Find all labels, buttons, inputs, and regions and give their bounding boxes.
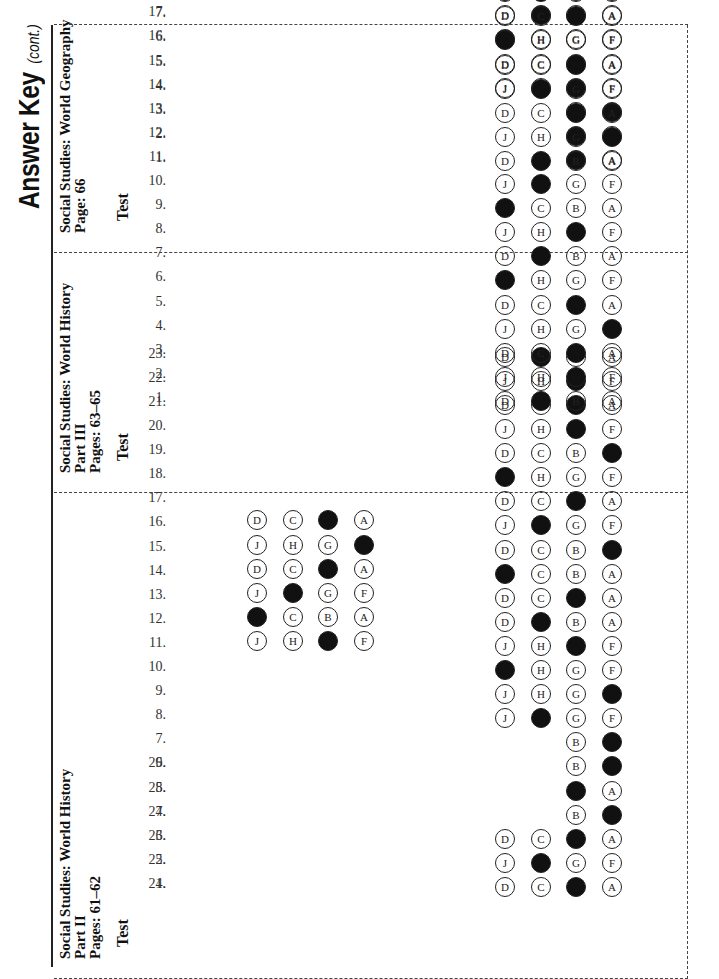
question-number: 2.	[132, 123, 166, 145]
question-number: 5.	[132, 291, 166, 313]
answer-bubble-j-correct: J	[495, 660, 515, 680]
answer-bubble-d: D	[495, 103, 515, 123]
answer-bubble-b-correct: B	[566, 55, 586, 75]
answer-bubble-g: G	[566, 660, 586, 680]
section-subject: Social Studies: World Geography	[58, 19, 73, 233]
question-number: 8.	[132, 704, 166, 726]
answer-bubble-j: J	[495, 0, 515, 2]
section-world-geography: Social Studies: World Geography Page: 66…	[54, 25, 686, 253]
answer-bubble-f: F	[602, 516, 622, 536]
answer-bubble-b-correct: B	[318, 511, 338, 531]
answer-bubble-h: H	[531, 319, 551, 339]
answer-bubble-h: H	[531, 684, 551, 704]
answer-bubble-j: J	[495, 708, 515, 728]
answer-bubble-g: G	[566, 708, 586, 728]
answer-bubble-a: A	[602, 781, 622, 801]
answer-bubble-b: B	[566, 732, 586, 752]
answer-bubble-h-correct: H	[531, 516, 551, 536]
answer-bubble-a: A	[602, 343, 622, 363]
answer-bubble-g-correct: G	[318, 631, 338, 651]
answer-bubble-c: C	[531, 103, 551, 123]
answer-bubble-g: G	[566, 0, 586, 2]
answer-bubble-a-correct: A	[602, 757, 622, 777]
answer-bubble-c: C	[531, 564, 551, 584]
answer-bubble-h: H	[531, 660, 551, 680]
answer-bubble-a: A	[602, 829, 622, 849]
answer-bubble-j: J	[495, 367, 515, 387]
question-number: 14.	[132, 560, 166, 582]
answer-bubble-f-correct: F	[354, 535, 374, 555]
page-title: Answer Key (cont.)	[12, 20, 46, 239]
answer-bubble-f: F	[602, 636, 622, 656]
answer-bubble-b-correct: B	[566, 877, 586, 897]
answer-key-page: Answer Key (cont.) Social Studies: World…	[0, 0, 719, 979]
section-part: Part II	[73, 769, 88, 959]
answer-bubble-b: B	[566, 805, 586, 825]
answer-bubble-f: F	[354, 583, 374, 603]
answer-bubble-h-correct: H	[531, 79, 551, 99]
answer-bubble-j: J	[247, 535, 267, 555]
answer-bubble-f: F	[602, 708, 622, 728]
answer-bubble-b: B	[566, 757, 586, 777]
title-subtitle: (cont.)	[24, 24, 44, 64]
answer-bubble-g: G	[566, 684, 586, 704]
answer-bubble-j: J	[495, 684, 515, 704]
question-number: 26.	[132, 825, 166, 847]
answer-bubble-a: A	[602, 295, 622, 315]
answer-bubble-c-correct: C	[531, 151, 551, 171]
section-heading: Social Studies: World History Part II Pa…	[58, 769, 103, 959]
question-number: 27.	[132, 801, 166, 823]
answer-bubble-d-correct: D	[495, 564, 515, 584]
answer-bubble-d: D	[495, 540, 515, 560]
test-label: Test	[114, 433, 132, 461]
answer-bubble-h: H	[531, 271, 551, 291]
question-number: 6.	[132, 267, 166, 289]
bottom-cut-line	[687, 25, 688, 979]
answer-bubble-f: F	[602, 0, 622, 2]
answer-bubble-d: D	[495, 829, 515, 849]
answer-bubble-c: C	[283, 511, 303, 531]
answer-bubble-g: G	[566, 79, 586, 99]
question-number: 7.	[132, 728, 166, 750]
question-number: 24.	[132, 873, 166, 895]
answer-bubble-a-correct: A	[602, 684, 622, 704]
answer-bubble-c: C	[283, 559, 303, 579]
question-number: 1.	[132, 387, 166, 409]
answer-bubble-h: H	[283, 535, 303, 555]
answer-bubble-b: B	[566, 391, 586, 411]
answer-bubble-c: C	[531, 540, 551, 560]
answer-bubble-c: C	[531, 55, 551, 75]
answer-bubble-b-correct: B	[566, 343, 586, 363]
answer-bubble-a: A	[354, 511, 374, 531]
section-heading: Social Studies: World History Part III P…	[58, 283, 103, 473]
answer-bubble-g-correct: G	[566, 636, 586, 656]
answer-bubble-f: F	[602, 367, 622, 387]
question-number: 6.	[132, 27, 166, 49]
answer-bubble-b-correct: B	[318, 559, 338, 579]
section-pages: Page: 66	[73, 19, 88, 233]
answer-bubble-c-correct: C	[531, 612, 551, 632]
answer-bubble-c: C	[531, 829, 551, 849]
answer-bubble-g: G	[566, 516, 586, 536]
answer-bubble-d: D	[495, 295, 515, 315]
question-number: 4.	[132, 75, 166, 97]
answer-bubble-f: F	[602, 31, 622, 51]
question-number: 28.	[132, 777, 166, 799]
answer-bubble-a: A	[602, 877, 622, 897]
answer-bubble-c: C	[531, 588, 551, 608]
answer-bubble-b-correct: B	[566, 829, 586, 849]
answer-bubble-a: A	[602, 151, 622, 171]
answer-bubble-b-correct: B	[566, 103, 586, 123]
answer-bubble-a: A	[602, 103, 622, 123]
answer-bubble-d: D	[247, 559, 267, 579]
answer-bubble-d-correct: D	[247, 607, 267, 627]
answer-bubble-g: G	[318, 583, 338, 603]
answer-bubble-f: F	[602, 271, 622, 291]
answer-bubble-a: A	[354, 559, 374, 579]
answer-bubble-b: B	[318, 607, 338, 627]
answer-bubble-f: F	[602, 660, 622, 680]
question-number: 3.	[132, 99, 166, 121]
answer-bubble-a: A	[602, 588, 622, 608]
section-world-history-part3: Social Studies: World History Part III P…	[54, 253, 686, 493]
answer-bubble-j: J	[495, 516, 515, 536]
